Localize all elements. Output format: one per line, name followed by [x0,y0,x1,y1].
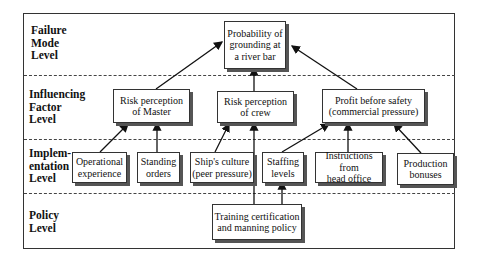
node-profit: Profit before safety (commercial pressur… [322,89,425,123]
arrow-profit-to-grounding [292,46,357,89]
arrow-bonuses-to-profit [394,124,421,153]
node-culture: Ship's culture (peer pressure) [190,152,254,183]
node-instructions: Instructions from head office [315,152,383,183]
node-bonuses: Production bonuses [397,153,454,185]
node-risk-crew: Risk perception of crew [217,91,294,123]
node-training: Training certification and manning polic… [212,204,302,240]
node-staffing: Staffing levels [262,152,304,183]
node-operational: Operational experience [72,152,127,183]
arrow-risk-master-to-grounding [156,42,222,89]
arrow-operational-to-risk-master [100,124,128,152]
arrow-culture-to-risk-crew [215,124,229,152]
node-grounding: Probability of grounding at a river bar [224,21,286,69]
node-standing: Standing orders [137,152,180,183]
node-risk-master: Risk perception of Master [113,89,190,123]
arrow-staffing-to-profit [282,124,329,152]
